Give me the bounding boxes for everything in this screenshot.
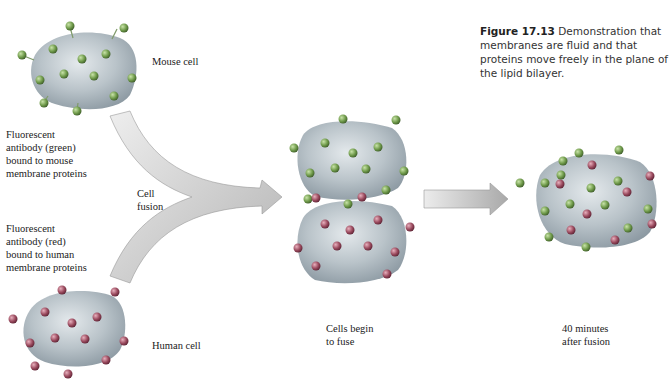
human-cell [9,286,129,379]
human-cell-label: Human cell [152,339,201,352]
mixed-cell [516,146,657,252]
cell-fusion-label: Cell fusion [137,187,163,213]
figure-number: Figure 17.13 [480,25,555,37]
cells-begin-label: Cells begin to fuse [326,322,374,348]
mouse-cell [18,22,137,116]
green-antibody-label: Fluorescent antibody (green) bound to mo… [6,128,87,180]
time-arrow [424,183,508,215]
mouse-cell-label: Mouse cell [152,55,198,68]
figure-caption: Figure 17.13 Demonstration that membrane… [480,24,669,80]
fusing-cells [290,115,415,284]
cell-fusion-arrow [110,111,282,283]
after-fusion-label: 40 minutes after fusion [562,322,610,348]
red-antibody-label: Fluorescent antibody (red) bound to huma… [6,222,87,274]
